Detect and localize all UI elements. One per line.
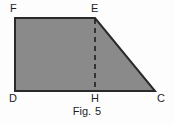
figure-caption: Fig.5: [0, 105, 174, 117]
vertex-label-c: C: [157, 93, 165, 104]
vertex-label-e: E: [91, 3, 98, 14]
vertex-label-d: D: [9, 93, 17, 104]
figure-caption-prefix: Fig.: [73, 105, 91, 117]
trapezoid-shape: [15, 18, 155, 91]
figure-caption-number: 5: [95, 105, 101, 117]
vertex-label-h: H: [91, 93, 99, 104]
vertex-label-f: F: [10, 3, 17, 14]
figure-container: F E D H C Fig.5: [0, 0, 174, 124]
